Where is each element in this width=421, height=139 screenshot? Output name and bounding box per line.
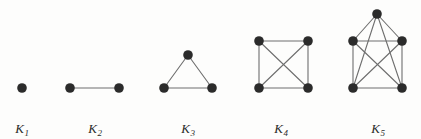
graph-label-k4: K4 [274,122,288,135]
graph-label-subscript: 3 [191,128,196,138]
vertex-group-k3 [159,50,217,93]
graph-canvas [0,0,421,139]
edge-group-k3 [164,55,212,88]
graph-vertex [114,83,124,93]
graph-vertex [17,83,27,93]
vertex-group-k1 [17,83,27,93]
graph-vertex [207,83,217,93]
graph-edge [188,55,212,88]
graph-k5 [348,9,407,93]
graph-vertex [254,83,264,93]
graph-vertex [303,36,313,46]
edge-group-k4 [259,41,308,88]
edge-group-k5 [353,14,402,88]
graph-k1 [17,83,27,93]
graph-vertex [303,83,313,93]
graph-vertex [397,36,407,46]
graph-vertex [183,50,193,60]
graph-k2 [65,83,124,93]
graph-label-k2: K2 [88,122,102,135]
graph-vertex [254,36,264,46]
graph-label-k5: K5 [371,122,385,135]
graph-label-k1: K1 [15,122,29,135]
graph-label-subscript: 1 [25,128,30,138]
graph-edge [377,14,402,88]
graph-vertex [397,83,407,93]
vertex-group-k5 [348,9,407,93]
graph-label-base: K [15,121,24,136]
complete-graphs-figure: K1K2K3K4K5 [0,0,421,139]
graph-k3 [159,50,217,93]
graph-vertex [372,9,382,19]
graph-vertex [348,83,358,93]
graph-label-base: K [274,121,283,136]
graph-vertex [159,83,169,93]
graph-label-subscript: 4 [284,128,289,138]
graph-label-base: K [88,121,97,136]
graph-vertex [348,36,358,46]
graph-label-subscript: 2 [98,128,103,138]
graph-label-subscript: 5 [381,128,386,138]
graph-vertex [65,83,75,93]
graph-label-base: K [181,121,190,136]
graph-label-k3: K3 [181,122,195,135]
graph-edge [164,55,188,88]
graph-edge [353,14,377,41]
graph-label-base: K [371,121,380,136]
graph-edge [377,14,402,41]
graph-k4 [254,36,313,93]
